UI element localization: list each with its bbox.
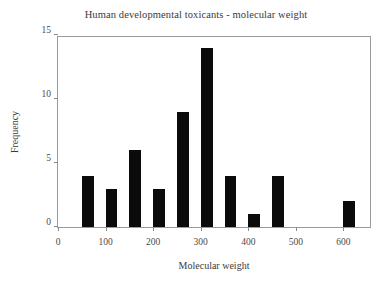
chart-title: Human developmental toxicants - molecula… [0, 9, 392, 20]
x-axis-tick-label: 300 [194, 237, 208, 247]
x-axis-tick [201, 227, 202, 231]
histogram-figure: Human developmental toxicants - molecula… [0, 0, 392, 286]
histogram-bar [82, 176, 94, 227]
x-axis-tick-label: 0 [56, 237, 61, 247]
y-axis-tick-label: 0 [46, 217, 51, 227]
x-axis-tick [296, 227, 297, 231]
x-axis-tick-label: 100 [98, 237, 112, 247]
x-axis-tick-label: 500 [289, 237, 303, 247]
x-axis-tick [58, 227, 59, 231]
x-axis-tick-label: 400 [241, 237, 255, 247]
y-axis-tick-label: 15 [42, 25, 52, 35]
plot-frame: 0510150100200300400500600 [57, 36, 371, 228]
histogram-bar [343, 201, 355, 227]
x-axis-tick [153, 227, 154, 231]
plot-area: 0510150100200300400500600 [58, 37, 370, 227]
x-axis-tick [343, 227, 344, 231]
x-axis-tick-label: 600 [336, 237, 350, 247]
histogram-bar [129, 150, 141, 227]
x-axis-tick [248, 227, 249, 231]
x-axis-tick [106, 227, 107, 231]
y-axis-tick-label: 5 [46, 153, 51, 163]
y-axis-label: Frequency [9, 111, 20, 153]
x-axis-tick-label: 200 [146, 237, 160, 247]
histogram-bar [177, 112, 189, 227]
y-axis-tick [54, 34, 58, 35]
y-axis-tick [54, 98, 58, 99]
histogram-bar [248, 214, 260, 227]
histogram-bar [201, 48, 213, 227]
y-axis-tick [54, 162, 58, 163]
x-axis-label: Molecular weight [57, 260, 371, 271]
histogram-bar [225, 176, 237, 227]
y-axis-tick-label: 10 [42, 89, 52, 99]
histogram-bar [106, 189, 118, 227]
histogram-bar [272, 176, 284, 227]
histogram-bar [153, 189, 165, 227]
